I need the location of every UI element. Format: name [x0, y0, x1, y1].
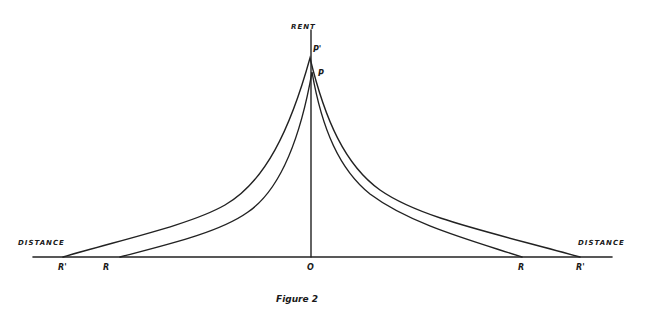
rent-gradient-diagram: RENT P' P DISTANCE DISTANCE R' R R R' O … — [0, 0, 647, 329]
origin-label: O — [307, 263, 314, 272]
outer-rent-curve — [63, 58, 580, 257]
peak-label-outer: P' — [313, 45, 321, 54]
endpoint-label-right-inner: R — [518, 263, 524, 272]
endpoint-label-left-inner: R — [103, 263, 109, 272]
figure-caption: Figure 2 — [276, 294, 318, 304]
distance-axis-label-right: DISTANCE — [578, 239, 625, 247]
inner-rent-curve — [120, 72, 522, 257]
endpoint-label-left-outer: R' — [58, 263, 67, 272]
peak-label-inner: P — [318, 69, 324, 78]
rent-axis-label: RENT — [291, 23, 316, 31]
distance-axis-label-left: DISTANCE — [18, 239, 65, 247]
endpoint-label-right-outer: R' — [576, 263, 585, 272]
